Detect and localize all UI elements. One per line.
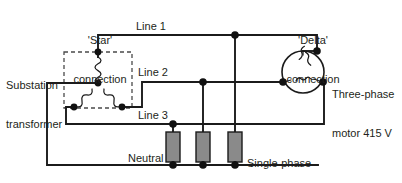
single-phase-loads-label-line-1: Single-phase: [247, 157, 325, 170]
conductor-line-2: [122, 82, 282, 107]
single-phase-load-3: [228, 132, 242, 162]
line-3-label: Line 3: [138, 109, 168, 122]
motor-label-line-1: Three-phase: [332, 88, 402, 101]
line-1-label: Line 1: [136, 20, 166, 33]
node-neutral-load-1: [169, 161, 177, 169]
single-phase-load-1: [166, 132, 180, 162]
node-neutral-load-2: [199, 161, 207, 169]
neutral-label: Neutral: [128, 152, 163, 165]
delta-connection-label-line-1: 'Delta': [268, 34, 358, 47]
single-phase-load-2: [196, 132, 210, 162]
substation-transformer-label-line-1: Substation: [6, 79, 68, 92]
node-line-1-tap: [231, 31, 239, 39]
node-line-3-tap: [169, 120, 177, 128]
electrical-schematic-diagram: 'Star' connection 'Delta' connection Sub…: [0, 0, 402, 183]
single-phase-loads-label: Single-phase loads 230 V: [247, 131, 325, 183]
star-connection-label-line-1: 'Star': [56, 34, 144, 47]
line-2-label: Line 2: [138, 66, 168, 79]
substation-transformer-label: Substation transformer: [6, 53, 68, 157]
substation-transformer-label-line-2: transformer: [6, 118, 68, 131]
star-connection-label: 'Star' connection: [56, 8, 144, 112]
node-neutral-load-3: [231, 161, 239, 169]
motor-label-line-2: motor 415 V: [332, 127, 402, 140]
motor-label: Three-phase motor 415 V: [332, 62, 402, 166]
star-connection-label-line-2: connection: [56, 73, 144, 86]
node-line-2-tap: [199, 78, 207, 86]
